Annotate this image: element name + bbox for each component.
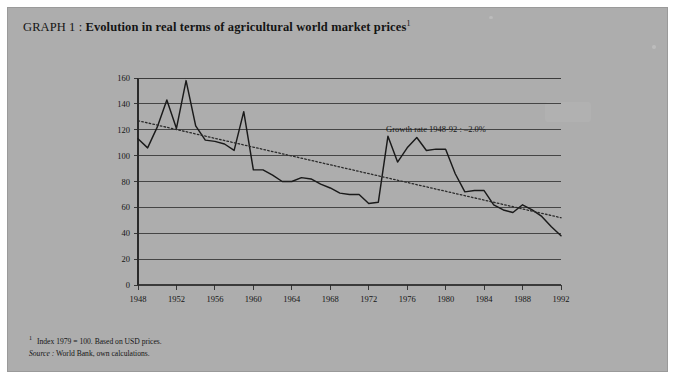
- y-axis-label: 160: [117, 73, 130, 83]
- source-label: Source :: [29, 349, 54, 358]
- y-axis-label: 20: [122, 254, 131, 264]
- y-axis-label: 0: [126, 280, 130, 290]
- y-axis-label: 120: [117, 125, 130, 135]
- x-axis-label: 1980: [437, 294, 454, 304]
- x-axis-label: 1976: [399, 294, 416, 304]
- x-axis-label: 1952: [168, 294, 185, 304]
- footnote-1-text: Index 1979 = 100. Based on USD prices.: [37, 337, 162, 346]
- footnote-1: 1Index 1979 = 100. Based on USD prices.: [29, 335, 162, 346]
- y-axis-label: 140: [117, 99, 130, 109]
- x-axis-label: 1984: [476, 294, 494, 304]
- y-axis-label: 40: [122, 228, 131, 238]
- x-axis-label: 1960: [245, 294, 262, 304]
- x-axis-label: 1972: [360, 294, 377, 304]
- growth-rate-annotation: Growth rate 1948-92 : –2.0%: [386, 124, 486, 134]
- x-axis-label: 1964: [283, 294, 301, 304]
- source-line: Source : World Bank, own calculations.: [29, 349, 162, 358]
- line-chart: 0204060801001201401601948195219561960196…: [7, 7, 668, 372]
- chart-area: 0204060801001201401601948195219561960196…: [7, 7, 668, 372]
- footnote-marker: 1: [29, 335, 32, 341]
- y-axis-label: 100: [117, 151, 130, 161]
- x-axis-label: 1992: [553, 294, 570, 304]
- footnotes: 1Index 1979 = 100. Based on USD prices. …: [29, 335, 162, 358]
- y-axis-label: 60: [122, 202, 131, 212]
- y-axis-label: 80: [122, 177, 131, 187]
- x-axis-label: 1968: [322, 294, 339, 304]
- x-axis-label: 1988: [514, 294, 531, 304]
- source-text: World Bank, own calculations.: [54, 349, 149, 358]
- graph-card: GRAPH 1 : Evolution in real terms of agr…: [7, 7, 668, 372]
- trend-line: [138, 121, 561, 218]
- x-axis-label: 1948: [130, 294, 147, 304]
- x-axis-label: 1956: [206, 294, 223, 304]
